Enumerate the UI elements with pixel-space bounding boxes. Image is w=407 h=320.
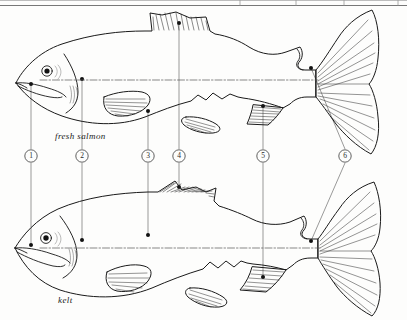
fresh-salmon-lower-jaw: [18, 86, 62, 98]
callout-label-3[interactable]: 3: [141, 149, 155, 163]
fresh-salmon-caudal-fin: [316, 10, 379, 154]
kelt-pupil: [43, 235, 48, 240]
kelt-caudal-fin: [318, 182, 381, 316]
fresh-salmon-dorsal-hatch: [153, 13, 208, 30]
kelt-caption: kelt: [58, 295, 73, 305]
fresh-salmon-anal-hatch: [249, 107, 281, 123]
fresh-salmon-eye-marks: [55, 65, 61, 79]
kelt-pelvic-rays: [189, 290, 222, 307]
callout-circles: [25, 150, 351, 162]
fresh-salmon-pectoral-rays: [105, 99, 147, 116]
fresh-salmon-gill-cover: [64, 54, 78, 113]
kelt-pectoral-rays: [108, 273, 149, 292]
callout-label-4[interactable]: 4: [172, 149, 186, 163]
fresh-salmon-pupil: [44, 68, 49, 73]
kelt-dorsal-hatch: [160, 182, 214, 197]
kelt-gill-cover: [60, 216, 77, 278]
callout-label-1[interactable]: 1: [24, 149, 38, 163]
callout-label-6[interactable]: 6: [338, 149, 352, 163]
fresh-salmon-caudal-rays: [318, 20, 375, 150]
kelt-lower-jaw: [17, 252, 65, 267]
kelt-eye-marks: [55, 232, 61, 246]
callout-dots: [29, 21, 313, 279]
fresh-salmon-caption: fresh salmon: [55, 131, 106, 141]
callout-label-2[interactable]: 2: [75, 149, 89, 163]
fresh-salmon-pectoral-fin: [104, 91, 150, 116]
kelt-caudal-rays: [320, 192, 377, 313]
callout-label-5[interactable]: 5: [256, 149, 270, 163]
top-rule: [0, 0, 407, 6]
